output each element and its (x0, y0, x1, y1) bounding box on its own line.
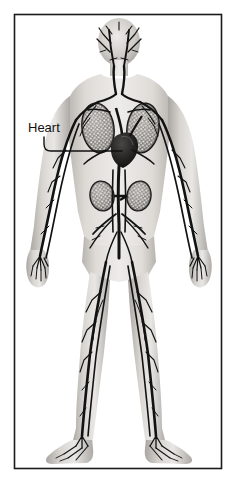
heart-label: Heart (28, 120, 60, 135)
figure-root: Heart (0, 0, 238, 483)
illustration-panel (15, 15, 221, 468)
circulatory-system-figure: Heart (0, 0, 238, 483)
